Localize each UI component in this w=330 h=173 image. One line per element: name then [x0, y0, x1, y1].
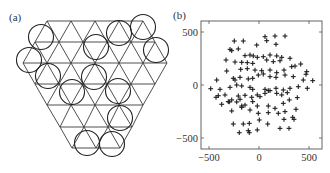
plus-marker	[305, 86, 310, 91]
plus-marker	[224, 58, 229, 63]
lattice-circle	[75, 131, 100, 156]
plus-marker	[295, 95, 300, 100]
plus-marker	[243, 53, 248, 58]
plus-marker	[274, 54, 279, 59]
plus-marker	[283, 73, 288, 78]
plus-marker	[243, 93, 248, 98]
plus-marker	[214, 78, 219, 83]
x-tick-label: −500	[198, 152, 220, 163]
plus-marker	[246, 77, 251, 82]
plus-marker	[310, 78, 315, 83]
plus-marker	[254, 43, 259, 48]
plot-frame	[201, 21, 322, 149]
plus-marker	[298, 62, 303, 67]
plus-marker	[279, 93, 284, 98]
y-tick-label: 0	[193, 80, 198, 91]
plus-marker	[255, 104, 260, 109]
plus-marker	[253, 68, 258, 73]
plus-marker	[282, 68, 287, 73]
plus-marker	[233, 60, 238, 65]
plus-marker	[274, 86, 279, 91]
triangular-lattice-diagram	[0, 0, 170, 173]
y-tick-label: 500	[182, 27, 198, 38]
scatter-plot: −50005005000−500	[170, 0, 330, 173]
x-tick-label: 0	[256, 152, 261, 163]
lattice-circle	[29, 25, 54, 50]
axes-ticks: −50005005000−500	[176, 21, 322, 163]
plus-marker	[287, 98, 292, 103]
plus-marker	[304, 69, 309, 74]
plus-marker	[294, 107, 299, 112]
plus-marker	[264, 58, 269, 63]
plus-marker	[239, 60, 244, 65]
plus-marker	[241, 39, 246, 44]
plus-marker	[236, 47, 241, 52]
lattice-circle	[131, 15, 156, 40]
plus-marker	[268, 68, 273, 73]
plus-marker	[231, 122, 236, 127]
lattice-circle	[144, 38, 169, 63]
plus-marker	[291, 74, 296, 79]
plus-marker	[232, 39, 237, 44]
plus-marker	[248, 108, 253, 113]
plus-marker	[234, 100, 239, 105]
plus-marker	[268, 53, 273, 58]
plus-marker	[266, 104, 271, 109]
plus-marker	[287, 126, 292, 131]
panel-a-lattice: (a)	[0, 0, 170, 173]
plus-marker	[274, 91, 279, 96]
plus-marker	[224, 69, 229, 74]
plus-marker	[219, 102, 224, 107]
plus-marker	[274, 42, 279, 47]
plus-marker	[256, 111, 261, 116]
plus-marker	[283, 34, 288, 39]
plus-marker	[247, 121, 252, 126]
plus-marker	[250, 76, 255, 81]
plus-marker	[278, 126, 283, 131]
plus-marker	[257, 118, 262, 123]
plus-marker	[223, 93, 228, 98]
plus-marker	[274, 75, 279, 80]
plus-marker	[281, 101, 286, 106]
plus-marker	[273, 106, 278, 111]
plus-marker	[245, 66, 250, 71]
plus-marker	[263, 91, 268, 96]
scatter-points	[208, 34, 315, 135]
plus-marker	[229, 109, 234, 114]
lattice-circle	[84, 35, 109, 60]
plus-marker	[249, 95, 254, 100]
plus-marker	[218, 87, 223, 92]
plus-marker	[283, 109, 288, 114]
circles	[17, 15, 169, 157]
lattice-circle	[100, 132, 125, 157]
plus-marker	[256, 73, 261, 78]
plus-marker	[239, 84, 244, 89]
plus-marker	[276, 111, 281, 116]
plus-marker	[289, 64, 294, 69]
plus-marker	[250, 99, 255, 104]
plus-marker	[288, 86, 293, 91]
plus-marker	[266, 110, 271, 115]
plus-marker	[241, 122, 246, 127]
plus-marker	[265, 122, 270, 127]
plus-marker	[238, 75, 243, 80]
plus-marker	[301, 78, 306, 83]
plus-marker	[268, 74, 273, 79]
plus-marker	[288, 56, 293, 61]
x-tick-label: 500	[301, 152, 317, 163]
plus-marker	[293, 64, 298, 69]
plus-marker	[208, 86, 213, 91]
plus-marker	[238, 67, 243, 72]
plus-marker	[228, 85, 233, 90]
plus-marker	[243, 103, 248, 108]
plus-marker	[261, 54, 266, 59]
plus-marker	[304, 72, 309, 77]
plus-marker	[250, 61, 255, 66]
plus-marker	[273, 34, 278, 39]
plus-marker	[255, 128, 260, 133]
plus-marker	[285, 90, 290, 95]
plus-marker	[245, 60, 250, 65]
plus-marker	[237, 130, 242, 135]
plus-marker	[282, 117, 287, 122]
plus-marker	[234, 83, 239, 88]
